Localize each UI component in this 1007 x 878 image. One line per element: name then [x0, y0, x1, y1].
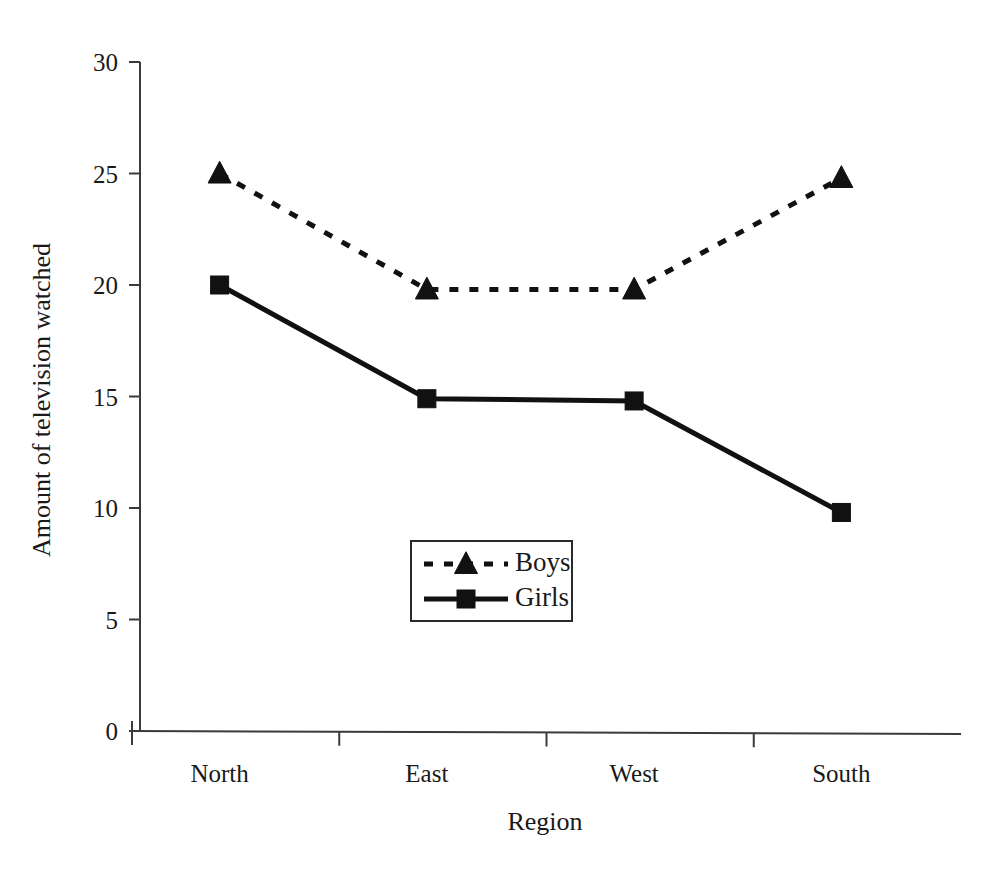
y-axis-tick-labels: 051015202530 [93, 49, 118, 745]
x-category-label-east: East [405, 760, 448, 787]
line-chart: 051015202530 NorthEastWestSouth Amount o… [0, 0, 1007, 878]
y-tick-label: 5 [106, 607, 119, 634]
chart-canvas: 051015202530 NorthEastWestSouth Amount o… [0, 0, 1007, 878]
y-axis-ticks [129, 62, 140, 731]
x-axis-category-labels: NorthEastWestSouth [190, 760, 871, 787]
data-point-marker-girls-north [211, 276, 229, 294]
series-boys [208, 161, 853, 299]
data-point-marker-girls-south [832, 503, 850, 521]
data-point-marker-legend-girls [457, 590, 475, 608]
legend-label-girls: Girls [515, 582, 569, 612]
y-tick-label: 20 [93, 272, 118, 299]
chart-legend: BoysGirls [411, 541, 572, 621]
x-category-label-south: South [812, 760, 871, 787]
x-category-label-west: West [609, 760, 658, 787]
series-line-girls [220, 285, 842, 512]
legend-label-boys: Boys [515, 547, 571, 577]
y-axis: 051015202530 [93, 49, 140, 745]
y-tick-label: 10 [93, 495, 118, 522]
y-tick-label: 30 [93, 49, 118, 76]
series-girls [211, 276, 851, 521]
y-tick-label: 0 [106, 718, 119, 745]
x-axis: NorthEastWestSouth [132, 721, 961, 787]
x-category-label-north: North [190, 760, 249, 787]
data-point-marker-girls-east [418, 390, 436, 408]
y-axis-title: Amount of television watched [27, 243, 56, 557]
y-tick-label: 15 [93, 384, 118, 411]
data-point-marker-boys-north [208, 161, 231, 183]
data-point-marker-girls-west [625, 392, 643, 410]
data-point-marker-boys-south [830, 166, 853, 188]
y-tick-label: 25 [93, 161, 118, 188]
data-series-layer [208, 161, 853, 521]
series-line-boys [220, 174, 842, 290]
data-point-marker-boys-west [623, 277, 646, 299]
x-axis-title: Region [507, 807, 582, 836]
